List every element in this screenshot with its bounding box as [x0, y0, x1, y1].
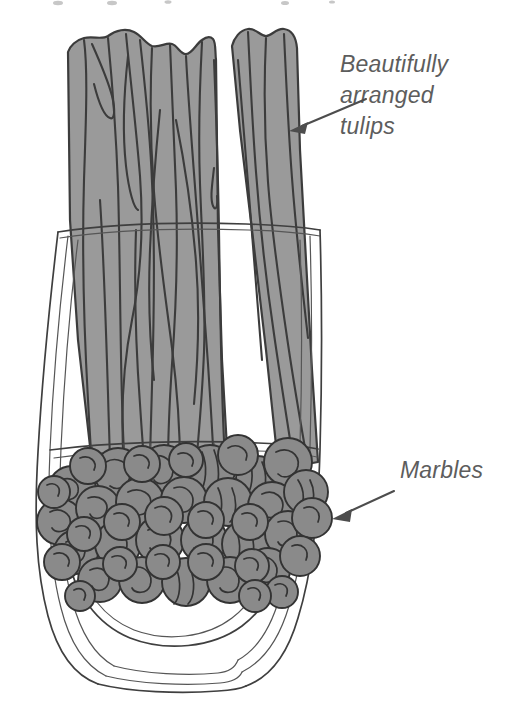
- marble: [280, 536, 320, 576]
- marble: [235, 549, 269, 583]
- marble: [65, 581, 95, 611]
- marble: [292, 498, 332, 538]
- annotation-marbles-line-1: Marbles: [400, 457, 484, 483]
- tulip-vase-illustration: Beautifully arranged tulips Marbles: [0, 0, 512, 702]
- tulip-stems-group: [68, 29, 318, 468]
- marble: [232, 504, 268, 540]
- marble: [218, 435, 258, 475]
- marble: [145, 497, 183, 535]
- marble-pile: [37, 435, 332, 612]
- annotation-tulips-line-3: tulips: [340, 113, 395, 139]
- marble: [239, 580, 271, 612]
- marble: [169, 443, 203, 477]
- marble: [104, 504, 140, 540]
- stem-mass-left: [68, 30, 228, 468]
- marble: [124, 446, 160, 482]
- marble: [188, 502, 224, 538]
- marble: [70, 448, 106, 484]
- marble: [67, 517, 101, 551]
- marble: [44, 544, 80, 580]
- marble: [103, 547, 137, 581]
- illustration-canvas: Beautifully arranged tulips Marbles: [0, 0, 512, 702]
- marble: [188, 544, 224, 580]
- marble: [146, 545, 180, 579]
- marble: [38, 476, 70, 508]
- annotation-tulips-line-1: Beautifully: [340, 51, 450, 77]
